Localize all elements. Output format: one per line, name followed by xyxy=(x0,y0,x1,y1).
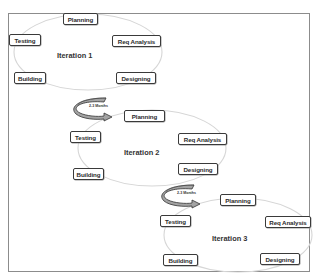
transition-arrow-1-icon xyxy=(74,98,112,121)
transition-arrow-2-icon xyxy=(162,185,200,208)
iteration-3-label: Iteration 3 xyxy=(212,234,247,243)
iteration-3-designing-box: Designing xyxy=(260,253,300,265)
iteration-2-label: Iteration 2 xyxy=(124,148,159,157)
iteration-1-building-box: Building xyxy=(14,72,46,84)
iteration-1-req-analysis-box: Req Analysis xyxy=(112,35,161,47)
iteration-2-req-analysis-box: Req Analysis xyxy=(178,133,227,145)
iteration-1-label: Iteration 1 xyxy=(57,51,92,60)
iteration-2-designing-box: Designing xyxy=(178,163,218,175)
iteration-1-testing-box: Testing xyxy=(9,34,41,46)
iteration-1-planning-box: Planning xyxy=(63,13,98,25)
iteration-3-planning-box: Planning xyxy=(220,194,256,206)
iteration-2-building-box: Building xyxy=(73,168,104,180)
iteration-3-testing-box: Testing xyxy=(160,215,191,227)
transition-1-duration-label: 2-3 Months xyxy=(89,104,108,108)
iteration-1-designing-box: Designing xyxy=(116,72,156,84)
iteration-2-planning-box: Planning xyxy=(124,110,165,122)
transition-2-duration-label: 2-3 Months xyxy=(177,191,196,195)
iteration-3-req-analysis-box: Req Analysis xyxy=(265,216,311,228)
iteration-3-building-box: Building xyxy=(163,254,198,266)
iteration-2-testing-box: Testing xyxy=(70,131,101,143)
